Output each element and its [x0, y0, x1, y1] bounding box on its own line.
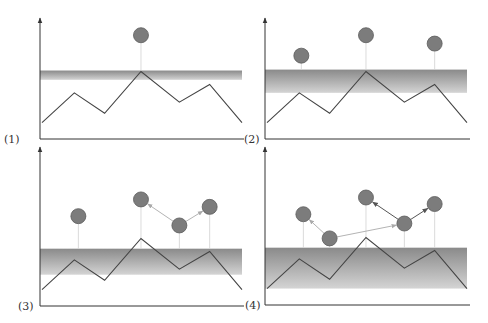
particle	[133, 28, 148, 43]
particle	[427, 197, 442, 212]
movement-arrow	[309, 220, 325, 234]
panel-2: (2)	[244, 18, 470, 146]
panel-4: (4)	[245, 147, 470, 312]
particle	[397, 216, 412, 231]
panels: (1)(2)(3)(4)	[4, 18, 470, 313]
particle	[358, 190, 373, 205]
particle	[202, 199, 217, 214]
particle	[358, 28, 373, 43]
panel-1: (1)	[4, 18, 244, 146]
threshold-band	[265, 70, 467, 93]
panel-label: (2)	[244, 133, 260, 146]
particle	[294, 48, 309, 63]
panel-label: (3)	[18, 300, 34, 313]
movement-arrow	[148, 204, 174, 222]
particle	[322, 231, 337, 246]
particle	[296, 207, 311, 222]
panel-3: (3)	[18, 147, 244, 313]
movement-arrow	[185, 211, 203, 222]
diagram: (1)(2)(3)(4)	[0, 0, 488, 323]
panel-label: (1)	[4, 133, 20, 146]
movement-arrow	[373, 202, 399, 220]
panel-label: (4)	[245, 299, 261, 312]
threshold-band	[265, 248, 467, 289]
particle	[427, 36, 442, 51]
threshold-band	[40, 249, 242, 275]
particle	[133, 192, 148, 207]
particle	[71, 209, 86, 224]
movement-arrow	[410, 208, 428, 220]
particle	[172, 218, 187, 233]
